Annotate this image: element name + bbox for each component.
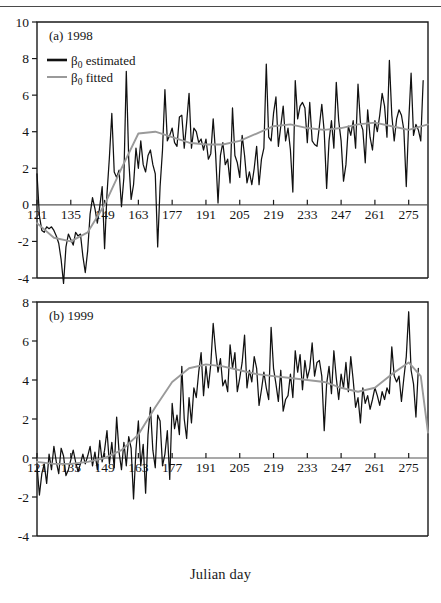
- series-line-fitted: [37, 123, 428, 242]
- x-tick-label: 205: [230, 207, 251, 222]
- y-tick-label: 4: [22, 373, 29, 388]
- x-tick-label: 247: [331, 207, 352, 222]
- legend-rest: estimated: [82, 53, 136, 68]
- page-top-rule: [0, 6, 441, 7]
- chart-panel-1998: -4-2024681012113514916317719120521923324…: [0, 14, 441, 288]
- y-tick-label: 6: [22, 88, 29, 103]
- x-tick-label: 191: [196, 460, 216, 475]
- x-axis-title: Julian day: [0, 566, 441, 583]
- y-tick-label: -2: [18, 234, 29, 249]
- x-tick-label: 233: [297, 207, 318, 222]
- figure-page: -4-2024681012113514916317719120521923324…: [0, 0, 441, 603]
- chart-svg-1998: -4-2024681012113514916317719120521923324…: [0, 14, 441, 288]
- x-tick-label: 191: [196, 207, 216, 222]
- y-tick-label: -4: [18, 529, 29, 544]
- x-tick-label: 135: [61, 207, 82, 222]
- x-tick-label: 121: [27, 207, 47, 222]
- series-line-estimated: [37, 60, 423, 283]
- y-tick-label: 2: [22, 161, 29, 176]
- plot-area-1998: -4-2024681012113514916317719120521923324…: [0, 14, 441, 288]
- x-tick-label: 205: [230, 460, 251, 475]
- x-tick-label: 219: [263, 207, 284, 222]
- y-tick-label: 4: [22, 124, 29, 139]
- y-tick-label: 2: [22, 412, 29, 427]
- plot-frame: [37, 302, 428, 536]
- x-tick-label: 261: [365, 460, 385, 475]
- chart-svg-1999: -4-2024681211351491631771912052192332472…: [0, 292, 441, 544]
- y-tick-label: -2: [18, 490, 29, 505]
- x-tick-label: 177: [162, 460, 183, 475]
- x-tick-label: 163: [128, 207, 149, 222]
- y-tick-label: 10: [16, 15, 30, 30]
- x-tick-label: 219: [263, 460, 284, 475]
- x-tick-label: 247: [331, 460, 352, 475]
- legend-rest: fitted: [82, 70, 113, 85]
- legend-label: β0 estimated: [71, 53, 136, 70]
- series-line-fitted: [37, 362, 428, 463]
- panel-tag-label: (b) 1999: [49, 308, 93, 323]
- x-tick-label: 177: [162, 207, 183, 222]
- legend-label: β0 fitted: [71, 70, 114, 87]
- panel-tag-label: (a) 1998: [49, 28, 93, 43]
- y-tick-label: -4: [18, 271, 29, 286]
- y-tick-label: 8: [22, 51, 29, 66]
- x-tick-label: 275: [399, 460, 420, 475]
- x-tick-label: 275: [399, 207, 420, 222]
- y-tick-label: 8: [22, 295, 29, 310]
- chart-panel-1999: -4-2024681211351491631771912052192332472…: [0, 292, 441, 544]
- x-tick-label: 261: [365, 207, 385, 222]
- plot-area-1999: -4-2024681211351491631771912052192332472…: [0, 292, 441, 544]
- y-tick-label: 6: [22, 334, 29, 349]
- x-tick-label: 233: [297, 460, 318, 475]
